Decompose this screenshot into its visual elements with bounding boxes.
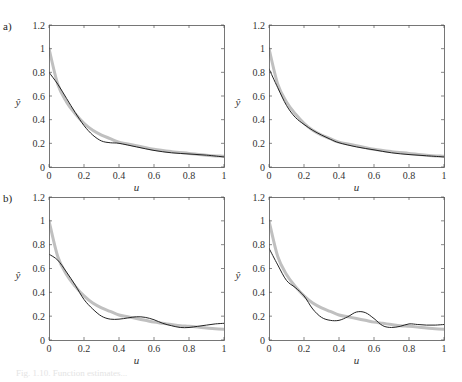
x-tick-label: 1 xyxy=(442,170,447,181)
y-tick-label: 0.8 xyxy=(33,239,46,250)
panel-label-a: a) xyxy=(3,20,12,33)
figure-canvas: a) b) 00.20.40.60.8100.20.40.60.811.2uŷ … xyxy=(0,0,462,382)
y-tick-label: 0.6 xyxy=(253,263,266,274)
x-tick-label: 0.2 xyxy=(78,343,91,354)
x-tick-label: 0.2 xyxy=(298,343,311,354)
x-tick-label: 0.2 xyxy=(298,170,311,181)
y-tick-label: 0.2 xyxy=(253,311,266,322)
x-tick-label: 0.6 xyxy=(368,170,381,181)
panel-label-b: b) xyxy=(3,192,13,205)
y-tick-label: 1 xyxy=(260,43,265,54)
x-tick-label: 1 xyxy=(442,343,447,354)
x-tick-label: 0 xyxy=(47,343,52,354)
plot-b-left: 00.20.40.60.8100.20.40.60.811.2uŷ xyxy=(15,192,227,367)
plot-a-left: 00.20.40.60.8100.20.40.60.811.2uŷ xyxy=(15,20,227,194)
y-tick-label: 0.4 xyxy=(33,114,46,125)
y-tick-label: 0.6 xyxy=(33,263,46,274)
y-tick-label: 0 xyxy=(260,335,265,346)
y-tick-label: 0.2 xyxy=(33,138,46,149)
x-tick-label: 0.4 xyxy=(333,343,346,354)
y-tick-label: 0.2 xyxy=(33,311,46,322)
true-function-curve xyxy=(269,49,444,157)
y-tick-label: 0.4 xyxy=(33,287,46,298)
x-tick-label: 0 xyxy=(47,170,52,181)
y-tick-label: 0.8 xyxy=(33,67,46,78)
x-tick-label: 1 xyxy=(222,170,227,181)
y-tick-label: 1.2 xyxy=(253,192,266,203)
y-axis-label: ŷ xyxy=(15,96,21,108)
x-tick-label: 0.2 xyxy=(78,170,91,181)
x-tick-label: 0.8 xyxy=(183,343,196,354)
y-tick-label: 0 xyxy=(40,162,45,173)
plot-a-right: 00.20.40.60.8100.20.40.60.811.2uŷ xyxy=(235,20,447,194)
x-tick-label: 0.6 xyxy=(148,343,161,354)
x-axis-label: u xyxy=(354,354,360,366)
y-axis-label: ŷ xyxy=(235,269,241,281)
y-tick-label: 1.2 xyxy=(253,20,266,31)
estimate-curve xyxy=(49,254,224,327)
y-tick-label: 0.8 xyxy=(253,67,266,78)
x-tick-label: 0.6 xyxy=(148,170,161,181)
x-tick-label: 0.4 xyxy=(113,170,126,181)
y-tick-label: 0.4 xyxy=(253,287,266,298)
y-tick-label: 0.8 xyxy=(253,239,266,250)
x-axis-label: u xyxy=(354,181,360,193)
x-tick-label: 0.8 xyxy=(403,343,416,354)
y-tick-label: 1.2 xyxy=(33,20,46,31)
true-function-curve xyxy=(269,221,444,329)
x-tick-label: 0 xyxy=(267,343,272,354)
true-function-curve xyxy=(49,49,224,157)
y-tick-label: 1.2 xyxy=(33,192,46,203)
true-function-curve xyxy=(49,221,224,329)
y-tick-label: 0.6 xyxy=(33,91,46,102)
x-tick-label: 0.6 xyxy=(368,343,381,354)
x-axis-label: u xyxy=(134,181,140,193)
y-tick-label: 0 xyxy=(260,162,265,173)
x-tick-label: 0.4 xyxy=(333,170,346,181)
x-tick-label: 0.8 xyxy=(403,170,416,181)
y-tick-label: 1 xyxy=(40,43,45,54)
y-tick-label: 0.6 xyxy=(253,91,266,102)
y-tick-label: 0 xyxy=(40,335,45,346)
x-tick-label: 0.8 xyxy=(183,170,196,181)
figure-caption: Fig. 1.10. Function estimates... xyxy=(16,368,446,378)
y-tick-label: 1 xyxy=(40,215,45,226)
plot-b-right: 00.20.40.60.8100.20.40.60.811.2uŷ xyxy=(235,192,447,367)
x-tick-label: 0.4 xyxy=(113,343,126,354)
x-tick-label: 1 xyxy=(222,343,227,354)
x-axis-label: u xyxy=(134,354,140,366)
x-tick-label: 0 xyxy=(267,170,272,181)
y-axis-label: ŷ xyxy=(15,269,21,281)
y-axis-label: ŷ xyxy=(235,96,241,108)
y-tick-label: 1 xyxy=(260,215,265,226)
y-tick-label: 0.2 xyxy=(253,138,266,149)
estimate-curve xyxy=(269,248,444,327)
y-tick-label: 0.4 xyxy=(253,114,266,125)
